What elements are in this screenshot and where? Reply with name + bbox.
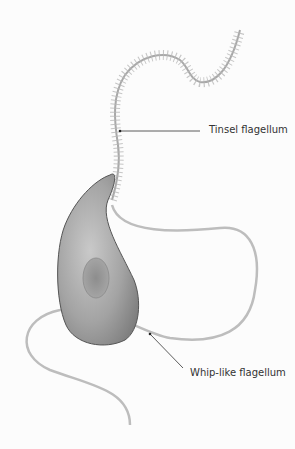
tinsel-flagellum (112, 30, 240, 200)
nucleus (83, 258, 109, 298)
diagram: Tinsel flagellum Whip-like flagellum (0, 0, 295, 449)
cell-illustration (0, 0, 295, 449)
tinsel-flagellum-label: Tinsel flagellum (209, 124, 288, 135)
whip-flagellum-label: Whip-like flagellum (190, 367, 286, 378)
